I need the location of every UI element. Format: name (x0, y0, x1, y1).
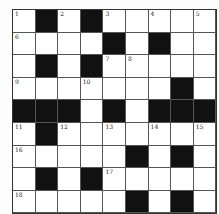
clue-number: 11 (15, 124, 23, 130)
grid-cell[interactable] (13, 168, 36, 191)
block-cell (58, 100, 81, 123)
grid-cell[interactable] (36, 78, 59, 101)
grid-cell[interactable]: 4 (149, 10, 172, 33)
block-cell (36, 100, 59, 123)
grid-cell[interactable] (194, 191, 217, 214)
grid-cell[interactable] (171, 33, 194, 56)
block-cell (149, 33, 172, 56)
block-cell (171, 78, 194, 101)
block-cell (171, 146, 194, 169)
block-cell (36, 123, 59, 146)
block-cell (171, 100, 194, 123)
grid-cell[interactable] (81, 123, 104, 146)
grid-cell[interactable]: 12 (58, 123, 81, 146)
grid-cell[interactable] (149, 55, 172, 78)
clue-number: 2 (60, 11, 64, 17)
grid-cell[interactable] (81, 191, 104, 214)
grid-cell[interactable] (126, 123, 149, 146)
grid-cell[interactable] (194, 168, 217, 191)
crossword-grid: 123456789101112131415161718 (12, 9, 217, 214)
grid-cell[interactable] (171, 10, 194, 33)
grid-cell[interactable]: 2 (58, 10, 81, 33)
grid-cell[interactable] (58, 55, 81, 78)
clue-number: 15 (196, 124, 204, 130)
grid-cell[interactable]: 15 (194, 123, 217, 146)
grid-cell[interactable] (126, 78, 149, 101)
clue-number: 10 (83, 79, 91, 85)
grid-cell[interactable]: 9 (13, 78, 36, 101)
block-cell (103, 33, 126, 56)
grid-cell[interactable]: 1 (13, 10, 36, 33)
clue-number: 6 (15, 34, 19, 40)
grid-cell[interactable] (194, 78, 217, 101)
grid-cell[interactable]: 3 (103, 10, 126, 33)
grid-cell[interactable]: 16 (13, 146, 36, 169)
grid-cell[interactable] (58, 78, 81, 101)
grid-cell[interactable] (126, 10, 149, 33)
clue-number: 5 (196, 11, 200, 17)
grid-cell[interactable] (58, 168, 81, 191)
grid-cell[interactable]: 17 (103, 168, 126, 191)
clue-number: 7 (105, 56, 109, 62)
block-cell (194, 100, 217, 123)
grid-cell[interactable] (126, 33, 149, 56)
grid-cell[interactable]: 5 (194, 10, 217, 33)
block-cell (36, 55, 59, 78)
grid-cell[interactable] (149, 168, 172, 191)
grid-cell[interactable]: 8 (126, 55, 149, 78)
grid-cell[interactable]: 13 (103, 123, 126, 146)
grid-cell[interactable] (36, 191, 59, 214)
clue-number: 1 (15, 11, 19, 17)
grid-cell[interactable] (103, 78, 126, 101)
grid-cell[interactable] (171, 123, 194, 146)
clue-number: 14 (151, 124, 159, 130)
grid-cell[interactable] (171, 55, 194, 78)
grid-cell[interactable] (103, 146, 126, 169)
grid-cell[interactable]: 7 (103, 55, 126, 78)
grid-cell[interactable] (13, 55, 36, 78)
grid-cell[interactable] (36, 146, 59, 169)
block-cell (126, 146, 149, 169)
grid-cell[interactable] (149, 191, 172, 214)
clue-number: 16 (15, 147, 23, 153)
clue-number: 13 (105, 124, 113, 130)
grid-cell[interactable] (81, 146, 104, 169)
clue-number: 3 (105, 11, 109, 17)
block-cell (81, 10, 104, 33)
grid-cell[interactable] (81, 100, 104, 123)
clue-number: 8 (128, 56, 132, 62)
grid-cell[interactable] (58, 191, 81, 214)
block-cell (36, 168, 59, 191)
block-cell (171, 191, 194, 214)
clue-number: 12 (60, 124, 68, 130)
grid-cell[interactable] (149, 78, 172, 101)
grid-cell[interactable]: 14 (149, 123, 172, 146)
clue-number: 4 (151, 11, 155, 17)
grid-cell[interactable] (194, 55, 217, 78)
block-cell (36, 10, 59, 33)
grid-cell[interactable] (58, 146, 81, 169)
grid-cell[interactable]: 6 (13, 33, 36, 56)
grid-cell[interactable]: 18 (13, 191, 36, 214)
grid-cell[interactable] (194, 33, 217, 56)
block-cell (81, 168, 104, 191)
grid-cell[interactable] (171, 168, 194, 191)
grid-cell[interactable]: 10 (81, 78, 104, 101)
grid-cell[interactable] (126, 100, 149, 123)
clue-number: 9 (15, 79, 19, 85)
grid-cell[interactable] (149, 146, 172, 169)
grid-cell[interactable] (58, 33, 81, 56)
grid-cell[interactable] (194, 146, 217, 169)
grid-cell[interactable] (81, 33, 104, 56)
grid-cell[interactable]: 11 (13, 123, 36, 146)
block-cell (81, 55, 104, 78)
grid-cell[interactable] (103, 191, 126, 214)
grid-cell[interactable] (126, 168, 149, 191)
clue-number: 18 (15, 192, 23, 198)
grid-cell[interactable] (36, 33, 59, 56)
block-cell (13, 100, 36, 123)
block-cell (103, 100, 126, 123)
clue-number: 17 (105, 169, 113, 175)
block-cell (149, 100, 172, 123)
block-cell (126, 191, 149, 214)
